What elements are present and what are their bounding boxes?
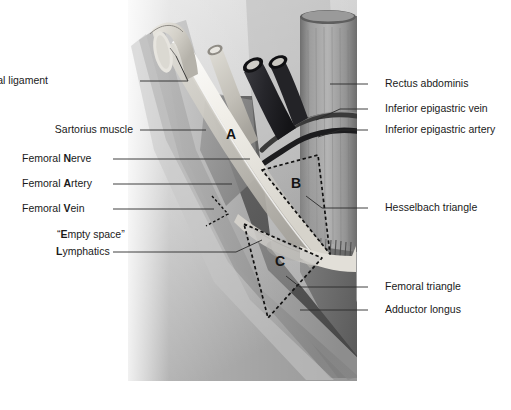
label-femoral-vein-initial: V	[63, 202, 70, 214]
right-labels: Rectus abdominis Inferior epigastric vei…	[385, 77, 496, 315]
label-empty-space-initial: E	[61, 228, 68, 240]
label-femoral-vein: Femoral Vein	[22, 202, 85, 214]
label-hesselbach-triangle: Hesselbach triangle	[385, 201, 477, 213]
anatomy-figure: A B C Inguinal ligament	[0, 0, 511, 410]
label-rectus-abdominis: Rectus abdominis	[385, 77, 468, 89]
label-femoral-nerve-rest: erve	[71, 152, 92, 164]
region-label-c: C	[275, 253, 285, 269]
label-femoral-nerve-prefix: Femoral	[22, 152, 63, 164]
label-inguinal-ligament: Inguinal ligament	[0, 74, 48, 86]
label-femoral-triangle: Femoral triangle	[385, 280, 461, 292]
label-empty-space: “Empty space”	[57, 228, 125, 240]
label-femoral-vein-rest: ein	[70, 202, 84, 214]
anatomy-illustration: A B C Inguinal ligament	[0, 0, 511, 410]
label-femoral-vein-prefix: Femoral	[22, 202, 63, 214]
left-labels: Inguinal ligament Sartorius muscle Femor…	[0, 74, 133, 257]
label-inferior-epigastric-vein: Inferior epigastric vein	[385, 102, 488, 114]
region-label-b: B	[291, 175, 301, 191]
region-label-a: A	[226, 126, 236, 142]
label-adductor-longus: Adductor longus	[385, 303, 461, 315]
label-femoral-artery-rest: rtery	[71, 177, 93, 189]
label-lymphatics: Lymphatics	[56, 245, 110, 257]
label-sartorius-muscle: Sartorius muscle	[55, 123, 133, 135]
label-femoral-nerve: Femoral Nerve	[22, 152, 92, 164]
label-empty-space-rest: mpty space”	[68, 228, 126, 240]
label-lymphatics-rest: ymphatics	[62, 245, 109, 257]
label-inferior-epigastric-artery: Inferior epigastric artery	[385, 123, 496, 135]
label-femoral-nerve-initial: N	[63, 152, 71, 164]
label-femoral-artery-prefix: Femoral	[22, 177, 63, 189]
label-femoral-artery: Femoral Artery	[22, 177, 93, 189]
